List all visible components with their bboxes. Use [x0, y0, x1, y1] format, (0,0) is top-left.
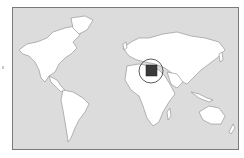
world-map: [12, 7, 239, 150]
world-map-svg: [13, 8, 239, 150]
indonesia: [191, 92, 213, 102]
north-america: [19, 26, 83, 82]
japan: [219, 52, 223, 62]
margin-speck: [2, 66, 4, 69]
new-zealand: [229, 124, 235, 134]
central-america: [49, 76, 65, 92]
australia: [199, 106, 225, 124]
madagascar: [167, 108, 171, 120]
south-america: [61, 90, 89, 142]
egypt-highlight: [146, 65, 157, 76]
